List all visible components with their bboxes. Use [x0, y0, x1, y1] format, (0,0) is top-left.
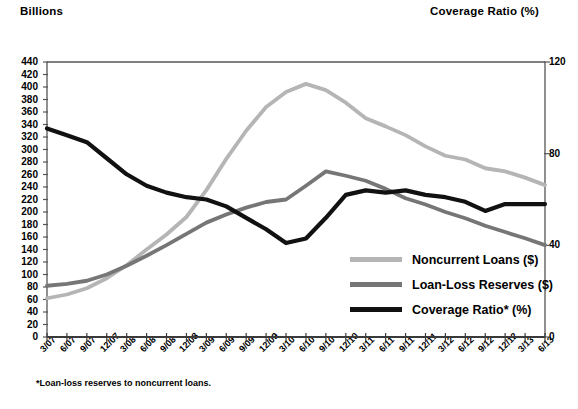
plot-area: [0, 0, 578, 409]
chart-footnote: *Loan-loss reserves to noncurrent loans.: [36, 378, 211, 388]
chart-legend: Noncurrent Loans ($)Loan-Loss Reserves (…: [350, 247, 550, 322]
legend-label: Noncurrent Loans ($): [412, 253, 538, 267]
legend-label: Loan-Loss Reserves ($): [412, 278, 553, 292]
legend-item: Noncurrent Loans ($): [350, 247, 550, 272]
series-line: [47, 128, 545, 243]
legend-label: Coverage Ratio* (%): [412, 303, 531, 317]
legend-swatch: [350, 282, 402, 287]
chart-container: Billions Coverage Ratio (%) 020406080100…: [0, 0, 578, 409]
legend-item: Coverage Ratio* (%): [350, 297, 550, 322]
legend-swatch: [350, 307, 402, 312]
legend-item: Loan-Loss Reserves ($): [350, 272, 550, 297]
legend-swatch: [350, 257, 402, 262]
